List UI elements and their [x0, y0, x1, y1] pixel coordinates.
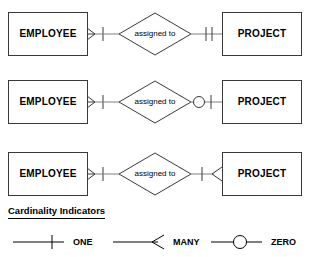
er-row: EMPLOYEE assigned to [0, 151, 310, 209]
one-tick-icon [12, 232, 68, 252]
legend-title: Cardinality Indicators [8, 206, 105, 219]
relationship-diamond[interactable]: assigned to [118, 80, 192, 124]
entity-label: EMPLOYEE [19, 169, 76, 179]
crows-foot-icon [87, 28, 95, 40]
crows-foot-icon [112, 232, 168, 252]
legend-label-one: ONE [73, 238, 93, 247]
relationship-diamond[interactable]: assigned to [118, 152, 192, 196]
circle-icon [194, 97, 205, 108]
circle-icon [210, 232, 266, 252]
legend: Cardinality Indicators ONE MANY ZERO [0, 206, 310, 257]
connector-right [190, 12, 224, 56]
entity-box-project[interactable]: PROJECT [222, 152, 302, 196]
entity-label: PROJECT [238, 29, 287, 39]
legend-item-many: MANY [112, 232, 200, 252]
entity-box-project[interactable]: PROJECT [222, 12, 302, 56]
entity-label: EMPLOYEE [19, 97, 76, 107]
legend-label-many: MANY [173, 238, 200, 247]
legend-label-zero: ZERO [271, 238, 296, 247]
er-row: EMPLOYEE assigned to [0, 11, 310, 69]
relationship-diamond[interactable]: assigned to [118, 12, 192, 56]
relationship-label: assigned to [118, 80, 192, 124]
connector-left [86, 80, 120, 124]
entity-box-employee[interactable]: EMPLOYEE [8, 152, 88, 196]
entity-label: PROJECT [238, 169, 287, 179]
er-row: EMPLOYEE assigned to [0, 79, 310, 137]
legend-item-one: ONE [12, 232, 93, 252]
legend-item-zero: ZERO [210, 232, 296, 252]
entity-box-employee[interactable]: EMPLOYEE [8, 12, 88, 56]
entity-box-employee[interactable]: EMPLOYEE [8, 80, 88, 124]
connector-right [190, 152, 224, 196]
relationship-label: assigned to [118, 12, 192, 56]
crows-foot-icon [87, 168, 95, 180]
er-diagram: EMPLOYEE assigned to [0, 0, 310, 257]
entity-label: EMPLOYEE [19, 29, 76, 39]
crows-foot-icon [87, 96, 95, 108]
connector-right [190, 80, 224, 124]
connector-left [86, 152, 120, 196]
relationship-label: assigned to [118, 152, 192, 196]
connector-left [86, 12, 120, 56]
entity-box-project[interactable]: PROJECT [222, 80, 302, 124]
entity-label: PROJECT [238, 97, 287, 107]
